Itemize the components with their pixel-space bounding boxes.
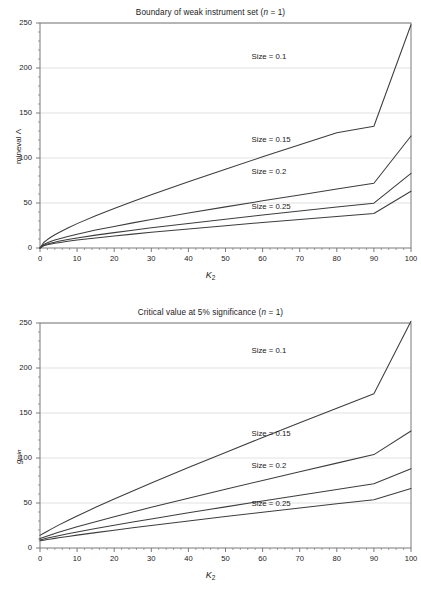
series-annotation: Size = 0.2 bbox=[251, 461, 286, 470]
x-tick-label: 10 bbox=[64, 254, 90, 263]
x-tick-label: 90 bbox=[361, 254, 387, 263]
y-tick-label: 0 bbox=[6, 543, 32, 552]
series-annotation: Size = 0.1 bbox=[251, 346, 286, 355]
x-tick-label: 50 bbox=[213, 554, 239, 563]
series-annotation: Size = 0.25 bbox=[251, 499, 290, 508]
x-tick-label: 70 bbox=[287, 254, 313, 263]
x-tick-label: 40 bbox=[175, 254, 201, 263]
x-tick-label: 40 bbox=[175, 554, 201, 563]
x-tick-label: 10 bbox=[64, 554, 90, 563]
x-tick-label: 60 bbox=[250, 254, 276, 263]
x-tick-label: 30 bbox=[138, 254, 164, 263]
chart-panel-top: Boundary of weak instrument set (n = 1) … bbox=[0, 0, 421, 299]
x-tick-label: 0 bbox=[27, 254, 53, 263]
x-tick-label: 20 bbox=[101, 554, 127, 563]
x-axis-label-bottom: K2 bbox=[0, 570, 421, 581]
y-tick-label: 150 bbox=[6, 408, 32, 417]
x-tick-label: 20 bbox=[101, 254, 127, 263]
series-annotation: Size = 0.1 bbox=[251, 52, 286, 61]
series-annotation: Size = 0.25 bbox=[251, 202, 290, 211]
y-axis-label-top-symbol: Λ bbox=[14, 128, 23, 133]
series-annotation: Size = 0.15 bbox=[251, 429, 290, 438]
y-tick-label: 100 bbox=[6, 153, 32, 162]
x-tick-label: 80 bbox=[324, 254, 350, 263]
x-axis-label-bottom-sub: 2 bbox=[212, 574, 216, 581]
y-tick-label: 200 bbox=[6, 363, 32, 372]
x-tick-label: 100 bbox=[398, 254, 421, 263]
x-tick-label: 30 bbox=[138, 554, 164, 563]
x-tick-label: 60 bbox=[250, 554, 276, 563]
chart-panel-bottom: Critical value at 5% significance (n = 1… bbox=[0, 300, 421, 599]
series-annotation: Size = 0.2 bbox=[251, 167, 286, 176]
x-tick-label: 50 bbox=[213, 254, 239, 263]
y-tick-label: 50 bbox=[6, 198, 32, 207]
y-tick-label: 150 bbox=[6, 108, 32, 117]
x-tick-label: 90 bbox=[361, 554, 387, 563]
x-axis-label-top-sub: 2 bbox=[212, 274, 216, 281]
x-tick-label: 80 bbox=[324, 554, 350, 563]
x-tick-label: 0 bbox=[27, 554, 53, 563]
y-tick-label: 50 bbox=[6, 498, 32, 507]
x-axis-label-top: K2 bbox=[0, 270, 421, 281]
series-annotation: Size = 0.15 bbox=[251, 135, 290, 144]
x-tick-label: 100 bbox=[398, 554, 421, 563]
y-tick-label: 100 bbox=[6, 453, 32, 462]
y-tick-label: 250 bbox=[6, 318, 32, 327]
y-tick-label: 0 bbox=[6, 243, 32, 252]
y-tick-label: 200 bbox=[6, 63, 32, 72]
x-tick-label: 70 bbox=[287, 554, 313, 563]
y-tick-label: 250 bbox=[6, 18, 32, 27]
